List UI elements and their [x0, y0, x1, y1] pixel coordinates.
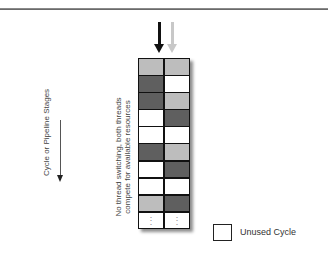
- legend-unused-swatch: [213, 224, 232, 241]
- arrow-down-icon: [57, 175, 63, 182]
- grid-cell-r2-t1-dark: [139, 76, 163, 92]
- grid-cell-r2-t2-white: [165, 76, 189, 92]
- grid-cell-r9-t1-light: [139, 196, 163, 212]
- grid-cell-r7-t1-white: [139, 162, 163, 178]
- grid-cell-r10-t2-dots: [165, 213, 189, 229]
- grid-cell-r8-t1-white: [139, 179, 163, 195]
- note-line: No thread switching, both threads compet…: [114, 94, 132, 220]
- grid-cell-r3-t2-light: [165, 93, 189, 109]
- pipeline-grid: [138, 58, 190, 229]
- grid-cell-r6-t2-light: [165, 144, 189, 160]
- grid-cell-r10-t1-dots: [139, 213, 163, 229]
- grid-cell-r7-t2-dark: [165, 162, 189, 178]
- grid-cell-r4-t1-white: [139, 110, 163, 126]
- thread-2-arrow-icon: [171, 22, 174, 44]
- grid-cell-r5-t1-white: [139, 127, 163, 143]
- grid-cell-r1-t1-light: [139, 59, 163, 75]
- grid-cell-r4-t2-dark: [165, 110, 189, 126]
- axis-label: Cycle or Pipeline Stages: [42, 80, 51, 185]
- grid-cell-r8-t2-white: [165, 179, 189, 195]
- top-rule: [0, 8, 328, 10]
- grid-cell-r6-t1-dark: [139, 144, 163, 160]
- grid-cell-r5-t2-white: [165, 127, 189, 143]
- legend-unused-label: Unused Cycle: [240, 227, 296, 237]
- axis-arrow-line: [60, 120, 61, 176]
- grid-cell-r9-t2-dark: [165, 196, 189, 212]
- grid-cell-r1-t2-light: [165, 59, 189, 75]
- thread-1-arrow-icon: [158, 22, 161, 44]
- note-text: No thread switching, both threads compet…: [114, 94, 132, 220]
- grid-cell-r3-t1-dark: [139, 93, 163, 109]
